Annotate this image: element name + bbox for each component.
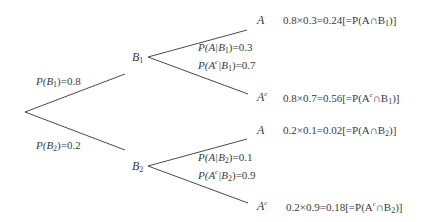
calc-text: 0.2×0.1=0.02[=P(A∩B <box>283 124 385 136</box>
label-text: P(B <box>36 139 53 151</box>
calc-text: 0.2×0.9=0.18[=P(A <box>286 201 373 213</box>
tree-edges <box>0 0 430 222</box>
node-sup: c <box>264 199 267 207</box>
edge-label-p-b1: P(B1)=0.8 <box>36 76 81 89</box>
label-text: P(A <box>198 169 215 181</box>
label-text: |B <box>218 169 228 181</box>
label-text: )=0.7 <box>232 59 256 71</box>
node-sub: 2 <box>139 165 143 174</box>
calc-text: ∩B <box>373 92 388 104</box>
node-sup: c <box>264 90 267 98</box>
probability-tree-diagram: P(B1)=0.8 P(B2)=0.2 B1 B2 P(A|B1)=0.3 P(… <box>0 0 430 222</box>
cond-label-ac-given-b1: P(Ac|B1)=0.7 <box>198 59 256 73</box>
leaf-a-b2: A <box>257 124 264 136</box>
label-text: P(B <box>36 75 53 87</box>
node-sub: 1 <box>139 56 143 65</box>
label-text: P(A|B <box>198 41 225 53</box>
label-text: )=0.8 <box>57 75 81 87</box>
leaf-calc-a-b1: 0.8×0.3=0.24[=P(A∩B1)] <box>283 15 396 28</box>
label-text: P(A|B <box>198 151 225 163</box>
calc-text: )] <box>389 14 396 26</box>
cond-label-ac-given-b2: P(Ac|B2)=0.9 <box>198 169 256 183</box>
node-b2: B2 <box>132 160 143 174</box>
label-text: |B <box>218 59 228 71</box>
calc-text: 0.8×0.7=0.56[=P(A <box>283 92 370 104</box>
leaf-calc-a-b2: 0.2×0.1=0.02[=P(A∩B2)] <box>283 125 396 138</box>
label-text: P(A <box>198 59 215 71</box>
node-b1: B1 <box>132 51 143 65</box>
node-text: A <box>257 13 264 27</box>
cond-label-a-given-b2: P(A|B2)=0.1 <box>198 152 252 165</box>
calc-text: )] <box>395 201 402 213</box>
leaf-ac-b2: Ac <box>257 200 267 212</box>
calc-text: )] <box>389 124 396 136</box>
calc-text: )] <box>392 92 399 104</box>
leaf-calc-ac-b2: 0.2×0.9=0.18[=P(Ac∩B2)] <box>286 201 402 215</box>
label-text: )=0.9 <box>232 169 256 181</box>
label-text: )=0.3 <box>229 41 253 53</box>
leaf-a-b1: A <box>257 14 264 26</box>
leaf-ac-b1: Ac <box>257 91 267 103</box>
label-text: )=0.1 <box>229 151 253 163</box>
leaf-calc-ac-b1: 0.8×0.7=0.56[=P(Ac∩B1)] <box>283 92 399 106</box>
calc-text: 0.8×0.3=0.24[=P(A∩B <box>283 14 385 26</box>
node-text: A <box>257 123 264 137</box>
label-text: )=0.2 <box>57 139 81 151</box>
calc-text: ∩B <box>376 201 391 213</box>
edge-label-p-b2: P(B2)=0.2 <box>36 140 81 153</box>
cond-label-a-given-b1: P(A|B1)=0.3 <box>198 42 252 55</box>
